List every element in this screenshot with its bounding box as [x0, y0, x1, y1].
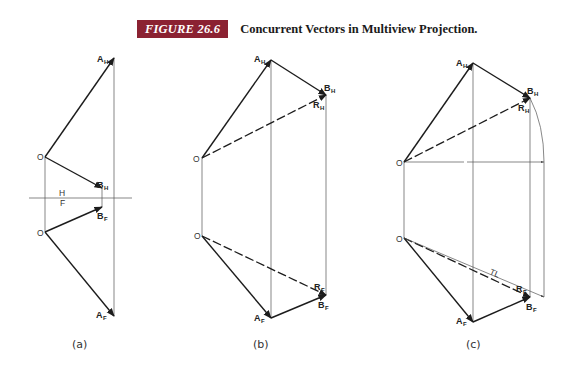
- vector-ab-top: [271, 60, 326, 95]
- label-b-h: B: [97, 180, 104, 190]
- label-b-f-sub: F: [104, 216, 108, 222]
- point-o-top: O: [193, 154, 200, 164]
- label-b-f: B: [526, 302, 533, 312]
- vector-oa-top: [45, 58, 114, 157]
- panel-b: O A H B H R H O R F B F A F (b): [193, 54, 335, 351]
- diagram-canvas: O A H B H H F B F O A F (a) O A H B H R …: [0, 0, 570, 370]
- point-o-top: O: [396, 158, 403, 168]
- panel-c: O A H B H R H O TL R F B F A F (c): [396, 58, 544, 351]
- label-r-f: R: [516, 284, 523, 294]
- label-a-h: A: [456, 58, 463, 68]
- label-b-h-sub: H: [534, 91, 538, 97]
- fold-label-h: H: [59, 188, 65, 198]
- label-b-f-sub: F: [533, 307, 537, 313]
- label-a-f-sub: F: [261, 318, 265, 324]
- label-a-h-sub: H: [463, 63, 467, 69]
- vector-oa-front: [404, 238, 473, 322]
- point-o-front: O: [37, 228, 44, 238]
- resultant-r-front: [202, 236, 326, 295]
- label-b-h: B: [527, 86, 534, 96]
- label-r-h: R: [313, 100, 320, 110]
- label-r-h-sub: H: [320, 105, 324, 111]
- panel-label-c: (c): [466, 338, 481, 351]
- panel-label-a: (a): [72, 338, 87, 351]
- vector-ab-top: [473, 63, 530, 98]
- label-a-h: A: [254, 54, 261, 64]
- label-a-f: A: [456, 316, 463, 326]
- resultant-r-top: [404, 98, 530, 162]
- label-a-f-sub: F: [103, 315, 107, 321]
- label-r-h-sub: H: [525, 108, 529, 114]
- label-r-h: R: [518, 103, 525, 113]
- revolution-arc: [530, 98, 544, 162]
- label-a-f: A: [254, 313, 261, 323]
- label-r-f-sub: F: [321, 287, 325, 293]
- vector-oa-front: [45, 232, 114, 316]
- label-b-h-sub: H: [104, 185, 108, 191]
- point-o-top: O: [37, 152, 44, 162]
- label-b-h-sub: H: [331, 88, 335, 94]
- label-a-h-sub: H: [261, 59, 265, 65]
- panel-label-b: (b): [253, 338, 269, 351]
- label-a-h-sub: H: [104, 59, 108, 65]
- resultant-r-front: [404, 238, 530, 297]
- vector-ob-top: [45, 157, 102, 188]
- true-length-annotation: TL: [488, 267, 501, 280]
- label-b-h: B: [324, 83, 331, 93]
- label-a-h: A: [97, 54, 104, 64]
- resultant-r-top: [202, 95, 326, 158]
- label-b-f-sub: F: [325, 305, 329, 311]
- label-r-f-sub: F: [523, 289, 527, 295]
- vector-oa-front: [202, 236, 271, 318]
- label-b-f: B: [97, 211, 104, 221]
- vector-ob-front: [45, 207, 102, 232]
- panel-a: O A H B H H F B F O A F (a): [29, 54, 132, 351]
- label-a-f-sub: F: [463, 321, 467, 327]
- label-b-f: B: [318, 300, 325, 310]
- fold-label-f: F: [60, 198, 65, 208]
- label-r-f: R: [314, 282, 321, 292]
- vector-oa-top: [404, 63, 473, 162]
- point-o-front: O: [194, 231, 201, 241]
- point-o-front: O: [396, 234, 403, 244]
- label-a-f: A: [96, 310, 103, 320]
- vector-ab-front: [473, 297, 530, 322]
- vector-oa-top: [202, 60, 271, 158]
